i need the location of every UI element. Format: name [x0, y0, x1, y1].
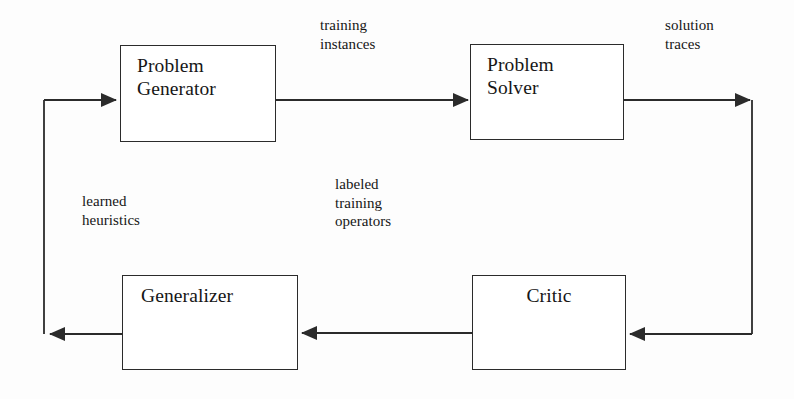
- edge-label-training-instances: training instances: [320, 16, 480, 53]
- node-problem-solver-label: Problem Solver: [487, 53, 627, 99]
- edge-label-labeled-training-operators: labeled training operators: [335, 175, 485, 231]
- node-critic-label: Critic: [472, 284, 626, 307]
- node-generalizer-label: Generalizer: [141, 284, 301, 307]
- diagram-canvas: Problem Generator Problem Solver Critic …: [0, 0, 794, 399]
- node-problem-generator-label: Problem Generator: [137, 54, 277, 100]
- edge-solver-to-right-rail: [624, 100, 752, 334]
- edge-label-learned-heuristics: learned heuristics: [82, 192, 232, 229]
- edge-label-solution-traces: solution traces: [665, 16, 794, 53]
